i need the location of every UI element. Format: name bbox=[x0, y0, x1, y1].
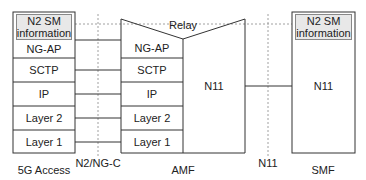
n2-interface-label: N2/NG-C bbox=[73, 157, 123, 169]
n11-interface-label: N11 bbox=[253, 157, 283, 169]
info-line2: information bbox=[296, 27, 350, 39]
access-node-label: 5G Access bbox=[4, 164, 84, 176]
access-layer-ip: IP bbox=[13, 82, 75, 106]
info-line2: information bbox=[17, 27, 71, 39]
amf-n11-protocol: N11 bbox=[183, 74, 245, 98]
amf-node-label: AMF bbox=[163, 164, 203, 176]
amf-layer-ip: IP bbox=[121, 82, 183, 106]
access-layer-l2: Layer 2 bbox=[13, 106, 75, 130]
amf-layer-sctp: SCTP bbox=[121, 58, 183, 82]
amf-layer-l1: Layer 1 bbox=[121, 130, 183, 153]
info-line1: N2 SM bbox=[27, 15, 61, 27]
access-layer-ngap: NG-AP bbox=[13, 40, 75, 58]
smf-node-label: SMF bbox=[303, 164, 343, 176]
access-layer-sctp: SCTP bbox=[13, 58, 75, 82]
smf-n2-sm-info: N2 SM information bbox=[295, 14, 352, 40]
smf-n11-protocol: N11 bbox=[292, 74, 355, 98]
access-n2-sm-info: N2 SM information bbox=[16, 14, 72, 40]
amf-layer-l2: Layer 2 bbox=[121, 106, 183, 130]
amf-layer-ngap: NG-AP bbox=[121, 38, 183, 58]
info-line1: N2 SM bbox=[307, 15, 341, 27]
access-layer-l1: Layer 1 bbox=[13, 130, 75, 153]
relay-label: Relay bbox=[158, 19, 208, 31]
